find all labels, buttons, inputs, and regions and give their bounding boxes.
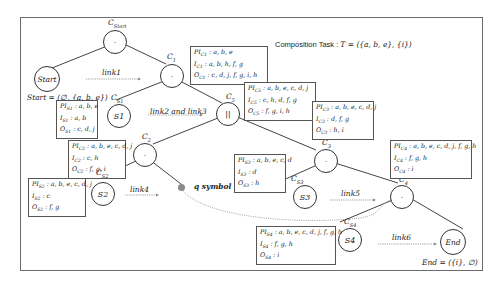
sequence-operator-icon: ·: [171, 72, 174, 81]
link1-label: link1: [102, 68, 121, 77]
composition-task-title: Composition Task : T = ({a, b, e}, {i}): [275, 40, 412, 49]
sequence-operator-icon: ·: [401, 193, 404, 202]
cs3-label: CS3: [291, 174, 303, 185]
sequence-operator-icon: ·: [325, 157, 328, 166]
c-start-node[interactable]: ·: [103, 30, 127, 54]
link2-and-link3-label: link2 and link3: [150, 107, 207, 116]
c1-node[interactable]: ·: [160, 64, 184, 88]
link4-label: link4: [130, 185, 149, 194]
cs2-label: CS2: [96, 168, 108, 179]
s4-info-box: PIS4 : a, b, e, c, d, j, f, g, h IS4 : f…: [256, 226, 336, 265]
q-symbol-dot[interactable]: [178, 184, 185, 191]
c-start-label: CStart: [108, 18, 127, 29]
c5-label: C5: [226, 92, 235, 103]
s4-node-label: S4: [345, 236, 356, 245]
s1-info-box: PIS1 : a, b, e IS1 : a, b OS1 : c, d, j: [56, 100, 98, 139]
end-node-label: End: [445, 238, 460, 247]
c1-label: C1: [167, 52, 176, 63]
c4-node[interactable]: ·: [390, 185, 414, 209]
link5-label: link5: [341, 189, 360, 198]
q-symbol-label: q symbol: [194, 182, 231, 191]
c1-info-box: PIC1 : a, b, e IC1 : a, b, h, f, g OC1 :…: [190, 46, 268, 85]
c5-parallel-node[interactable]: ||: [216, 102, 240, 126]
cs4-label: CS4: [344, 217, 356, 228]
link6-label: link6: [392, 233, 411, 242]
s3-node-label: S3: [300, 193, 311, 202]
c2-label: C2: [142, 132, 151, 143]
s1-node-label: S1: [114, 112, 125, 121]
start-node-label: Start: [37, 75, 56, 84]
s2-node[interactable]: S2: [91, 182, 115, 206]
s1-node[interactable]: S1: [107, 104, 131, 128]
composition-task-formula: T = ({a, b, e}, {i}): [340, 40, 411, 49]
composition-task-label: Composition Task :: [275, 40, 338, 49]
c3-info-box: PIC3 : a, b, e, c, d, j IC3 : d, f, g OC…: [312, 101, 374, 140]
end-definition: End = ({i}, ∅): [422, 258, 478, 267]
c2-node[interactable]: ·: [133, 143, 157, 167]
s2-node-label: S2: [98, 190, 109, 199]
cs1-label: CS1: [111, 93, 123, 104]
s3-info-box: PIS3 : a, b, e, c, d IS3 : d OS3 : h: [234, 154, 286, 193]
c4-info-box: PIC4 : a, b, e, c, d, j, f, g, h IC4 : f…: [390, 140, 472, 179]
sequence-operator-icon: ·: [144, 151, 147, 160]
c5-info-box: PIC5 : a, b, e, c, d, j IC5 : c, h, d, f…: [244, 82, 316, 121]
start-node[interactable]: Start: [34, 66, 60, 92]
parallel-operator-icon: ||: [225, 110, 230, 119]
s3-node[interactable]: S3: [293, 185, 317, 209]
end-node[interactable]: End: [440, 229, 466, 255]
s2-info-box: PIS2 : a, b, e, c, d, j IS2 : c OS2 : f,…: [28, 178, 86, 217]
sequence-operator-icon: ·: [114, 38, 117, 47]
c3-node[interactable]: ·: [314, 149, 338, 173]
